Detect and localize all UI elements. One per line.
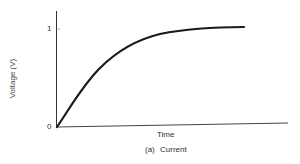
- chart-canvas: [0, 0, 300, 164]
- x-axis-label: Time: [157, 130, 174, 139]
- y-tick-label-1: 1: [47, 24, 51, 33]
- y-axis-label: Voltage (V): [8, 49, 17, 109]
- voltage-curve: [57, 27, 244, 127]
- caption-text: Current: [160, 145, 187, 154]
- caption-letter: (a): [145, 145, 155, 154]
- y-tick-label-0: 0: [47, 122, 51, 131]
- x-axis: [57, 123, 289, 127]
